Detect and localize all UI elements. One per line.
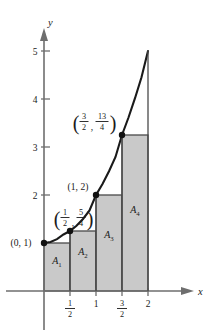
x-tick-label-2: 2 [146,299,151,309]
x-tick-threehalves-denominator: 2 [120,310,124,319]
label-threehalves-y-denominator: 4 [100,123,104,132]
area-label-A2-subscript: 2 [84,252,88,259]
point-label-1-2: (1, 2) [68,181,89,193]
x-tick-half-numerator: 1 [68,299,72,308]
x-tick-label-threehalves: 3 2 [117,299,127,319]
label-half-y-numerator: 5 [79,208,83,217]
figure-svg: y x 5 4 3 2 1 2 1 3 [0,0,208,333]
x-tick-label-1: 1 [94,299,99,309]
x-tick-threehalves-numerator: 3 [120,299,124,308]
label-threehalves-comma: , [91,121,93,132]
label-half-x-denominator: 2 [63,219,67,228]
area-label-A1-subscript: 1 [58,261,61,268]
rectangle-A2 [70,231,96,291]
y-axis-arrowhead [40,28,48,41]
x-axis-label: x [197,286,203,297]
paren-close-half: ) [87,208,94,231]
point-dot-threehalves-thirteenfourths [119,132,125,138]
point-label-threehalves-thirteenfourths: ( 3 2 , 13 4 ) [73,112,117,135]
y-axis-label: y [47,17,53,28]
label-threehalves-x-denominator: 2 [82,123,86,132]
paren-open-half: ( [54,208,61,231]
x-tick-half-denominator: 2 [68,310,72,319]
y-tick-label-5: 5 [33,47,38,57]
label-threehalves-y-numerator: 13 [98,112,106,121]
x-axis-arrowhead [181,287,194,295]
y-axis-ticks: 5 4 3 2 [33,47,50,201]
y-tick-label-4: 4 [33,95,38,105]
point-dot-1-2 [93,192,99,198]
rectangle-A3 [96,195,122,291]
area-label-A3-subscript: 3 [110,235,114,242]
x-tick-label-half: 1 2 [65,299,75,319]
point-dot-half-fivefourths [67,228,73,234]
point-label-half-fivefourths: ( 1 2 , 5 4 ) [54,208,94,231]
label-half-y-denominator: 4 [79,219,83,228]
label-half-x-numerator: 1 [63,208,67,217]
y-tick-label-2: 2 [33,191,38,201]
point-label-0-1: (0, 1) [11,237,32,249]
y-tick-label-3: 3 [33,143,38,153]
riemann-sum-figure: y x 5 4 3 2 1 2 1 3 [0,0,208,333]
area-label-A4-subscript: 4 [136,210,140,217]
paren-open-threehalves: ( [73,112,80,135]
point-dot-0-1 [41,240,47,246]
paren-close-threehalves: ) [110,112,117,135]
label-half-comma: , [72,217,74,228]
label-threehalves-x-numerator: 3 [82,112,86,121]
rectangle-A1 [44,243,70,291]
